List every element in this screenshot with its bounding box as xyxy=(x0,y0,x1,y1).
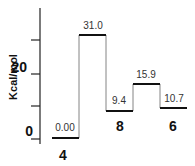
value-label-4: 0.00 xyxy=(55,122,75,133)
y-tick-label-0: 0 xyxy=(25,123,33,139)
value-label-ts2: 15.9 xyxy=(136,69,156,80)
species-label-8: 8 xyxy=(116,118,124,134)
value-label-ts1: 31.0 xyxy=(83,20,103,31)
y-axis-label: Kcal/mol xyxy=(7,54,19,100)
species-label-4: 4 xyxy=(59,147,67,163)
value-label-6: 10.7 xyxy=(164,93,184,104)
energy-diagram: 20 0 Kcal/mol 0.00 31.0 9.4 15.9 10.7 4 … xyxy=(0,0,195,166)
value-label-8: 9.4 xyxy=(112,95,126,106)
species-label-6: 6 xyxy=(169,118,177,134)
